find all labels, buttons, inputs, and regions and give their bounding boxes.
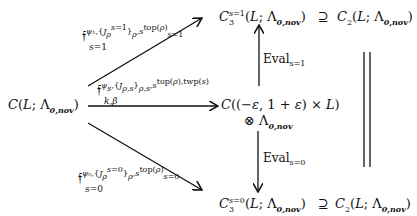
source-node: C(L; Λ0,nov) xyxy=(8,97,79,112)
middle-node-tensor: ⊗ Λ0,nov xyxy=(244,113,293,128)
top-supseteq: ⊇ xyxy=(318,9,329,24)
lower-diagonal-label: 𝔣ψ₀,{Jρs=0}ρ,stop(ρ)s=0 s=0 xyxy=(78,170,179,187)
top-left-node: C3s=1(L; Λ0,nov) xyxy=(219,9,306,24)
bottom-supseteq: ⊇ xyxy=(318,196,329,211)
eval-up-label: Evals=1 xyxy=(263,52,305,66)
upper-diagonal-label: 𝔣ψ₁,{Jρs=1}ρ,stop(ρ)s=1 s=1 xyxy=(82,28,183,45)
top-right-node: C2(L; Λ0,nov) xyxy=(337,9,413,24)
horizontal-label: 𝔣ψs,{Jρ,s}ρ,s,stop(ρ),twp(s) k,β xyxy=(97,82,209,99)
middle-node: C((−ε, 1 + ε) × L) xyxy=(221,97,340,112)
eval-down-label: Evals=0 xyxy=(263,151,305,165)
bottom-left-node: C3s=0(L; Λ0,nov) xyxy=(219,196,306,211)
bottom-right-node: C2(L; Λ0,nov) xyxy=(335,196,411,211)
